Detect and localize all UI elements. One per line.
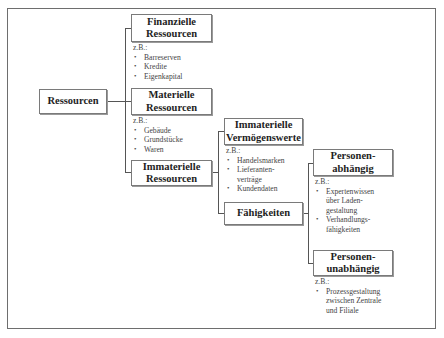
example-item: Kundendaten	[226, 184, 285, 194]
example-item: Waren	[133, 145, 183, 155]
examples-materielle: z.B.: Gebäude Grundstücke Waren	[133, 116, 183, 154]
connector-root	[107, 101, 125, 102]
node-label: Immaterielle Vermögenswerte	[226, 119, 301, 144]
examples-personenabhaengig: z.B.: Expertenwissen über Laden- gestalt…	[315, 177, 374, 235]
connector-level2-spine	[218, 131, 219, 214]
node-immaterielle-ressourcen: Immaterielle Ressourcen	[131, 160, 212, 186]
example-item: Eigenkapital	[133, 72, 182, 82]
node-label: Immaterielle Ressourcen	[143, 161, 201, 186]
examples-prefix: z.B.:	[133, 116, 183, 126]
examples-prefix: z.B.:	[226, 146, 285, 156]
node-label: Fähigkeiten	[237, 207, 290, 220]
example-item: Prozessgestaltung zwischen Zentrale und …	[315, 287, 381, 316]
example-item: Expertenwissen über Laden- gestaltung	[315, 187, 374, 216]
node-label: Personen- unabhängig	[326, 251, 379, 276]
node-materielle-ressourcen: Materielle Ressourcen	[131, 88, 212, 115]
examples-finanzielle: z.B.: Barreserven Kredite Eigenkapital	[133, 43, 182, 81]
examples-prefix: z.B.:	[133, 43, 182, 53]
examples-vermoegenswerte: z.B.: Handelsmarken Lieferanten- verträg…	[226, 146, 285, 194]
example-item: Barreserven	[133, 53, 182, 63]
example-item: Lieferanten- verträge	[226, 165, 285, 184]
examples-personenunabhaengig: z.B.: Prozessgestaltung zwischen Zentral…	[315, 277, 381, 315]
example-item: Grundstücke	[133, 135, 183, 145]
example-item: Handelsmarken	[226, 156, 285, 166]
node-ressourcen: Ressourcen	[39, 89, 107, 114]
node-finanzielle-ressourcen: Finanzielle Ressourcen	[131, 14, 212, 42]
node-label: Materielle Ressourcen	[146, 89, 197, 114]
node-immaterielle-vermoegenswerte: Immaterielle Vermögenswerte	[224, 118, 303, 145]
connector-level3-spine	[308, 163, 309, 264]
node-label: Ressourcen	[47, 95, 98, 108]
node-label: Personen- abhängig	[331, 150, 376, 175]
example-item: Gebäude	[133, 126, 183, 136]
node-label: Finanzielle Ressourcen	[146, 16, 197, 41]
examples-prefix: z.B.:	[315, 177, 374, 187]
example-item: Verhandlungs- fähigkeiten	[315, 215, 374, 234]
examples-prefix: z.B.:	[315, 277, 381, 287]
node-faehigkeiten: Fähigkeiten	[224, 202, 303, 225]
example-item: Kredite	[133, 62, 182, 72]
node-personenabhaengig: Personen- abhängig	[313, 149, 393, 176]
node-personenunabhaengig: Personen- unabhängig	[313, 250, 393, 276]
